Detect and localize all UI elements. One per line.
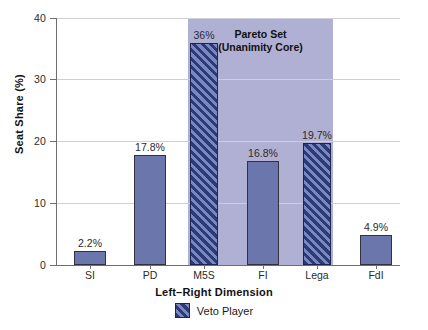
chart-legend: Veto Player [0, 303, 428, 318]
bar-lega [303, 143, 331, 265]
y-tick-label-40: 40 [18, 12, 46, 24]
gridline-30 [56, 79, 400, 80]
bar-fdi [360, 235, 392, 265]
x-tick-label-pd: PD [126, 269, 174, 281]
y-tick-mark-20 [50, 141, 56, 142]
bar-value-label-lega: 19.7% [293, 129, 341, 141]
bar-pd [134, 155, 166, 265]
y-tick-label-0: 0 [18, 259, 46, 271]
x-tick-label-fdi: FdI [352, 269, 400, 281]
gridline-20 [56, 141, 400, 142]
y-tick-mark-40 [50, 18, 56, 19]
y-axis-title: Seat Share (%) [13, 49, 25, 179]
y-axis-line [56, 18, 57, 265]
x-tick-label-m5s: M5S [180, 269, 228, 281]
bar-fi [247, 161, 279, 265]
bar-chart-figure: Pareto Set (Unanimity Core) 40 30 20 10 … [0, 0, 428, 330]
gridline-40 [56, 18, 400, 19]
bar-m5s [190, 43, 218, 265]
x-tick-label-fi: FI [239, 269, 287, 281]
bar-value-label-m5s: 36% [180, 29, 228, 41]
y-tick-mark-0 [50, 265, 56, 266]
x-tick-label-si: SI [66, 269, 114, 281]
bar-value-label-pd: 17.8% [126, 141, 174, 153]
y-tick-label-10: 10 [18, 197, 46, 209]
bar-value-label-fi: 16.8% [239, 147, 287, 159]
bar-value-label-fdi: 4.9% [352, 221, 400, 233]
x-axis-line [56, 265, 400, 266]
hatched-square-icon [175, 303, 190, 318]
legend-label-veto-player: Veto Player [197, 305, 253, 317]
bar-value-label-si: 2.2% [66, 237, 114, 249]
gridline-10 [56, 203, 400, 204]
x-axis-title: Left–Right Dimension [0, 286, 428, 298]
bar-si [74, 251, 106, 265]
x-tick-label-lega: Lega [293, 269, 341, 281]
y-tick-mark-10 [50, 203, 56, 204]
y-tick-mark-30 [50, 79, 56, 80]
